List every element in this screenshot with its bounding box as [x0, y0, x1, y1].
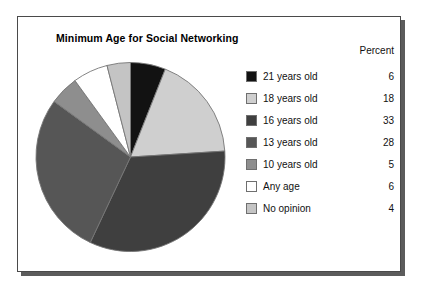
legend-swatch-icon	[246, 203, 257, 214]
legend: Percent 21 years old618 years old1816 ye…	[246, 45, 394, 219]
legend-value: 6	[368, 71, 394, 82]
pie-chart-svg	[35, 59, 227, 255]
legend-header: Percent	[246, 45, 394, 65]
legend-value: 18	[368, 93, 394, 104]
chart-title: Minimum Age for Social Networking	[56, 32, 239, 44]
legend-row[interactable]: 10 years old5	[246, 153, 394, 175]
chart-frame: Minimum Age for Social Networking Percen…	[17, 16, 401, 272]
legend-swatch-icon	[246, 159, 257, 170]
legend-swatch-icon	[246, 137, 257, 148]
legend-value: 33	[368, 115, 394, 126]
legend-value: 5	[368, 159, 394, 170]
legend-swatch-icon	[246, 115, 257, 126]
legend-row[interactable]: 21 years old6	[246, 65, 394, 87]
pie-chart	[35, 59, 227, 255]
legend-row[interactable]: No opinion4	[246, 197, 394, 219]
legend-label: 10 years old	[263, 159, 368, 170]
legend-value: 6	[368, 181, 394, 192]
legend-value: 4	[368, 203, 394, 214]
legend-value: 28	[368, 137, 394, 148]
legend-row[interactable]: 13 years old28	[246, 131, 394, 153]
legend-label: 13 years old	[263, 137, 368, 148]
legend-label: 16 years old	[263, 115, 368, 126]
legend-rows: 21 years old618 years old1816 years old3…	[246, 65, 394, 219]
legend-row[interactable]: Any age6	[246, 175, 394, 197]
legend-header-percent: Percent	[360, 45, 394, 56]
legend-row[interactable]: 16 years old33	[246, 109, 394, 131]
legend-label: Any age	[263, 181, 368, 192]
legend-swatch-icon	[246, 181, 257, 192]
legend-swatch-icon	[246, 71, 257, 82]
legend-label: 18 years old	[263, 93, 368, 104]
legend-label: No opinion	[263, 203, 368, 214]
pie-slices	[36, 63, 225, 252]
legend-label: 21 years old	[263, 71, 368, 82]
legend-row[interactable]: 18 years old18	[246, 87, 394, 109]
legend-swatch-icon	[246, 93, 257, 104]
